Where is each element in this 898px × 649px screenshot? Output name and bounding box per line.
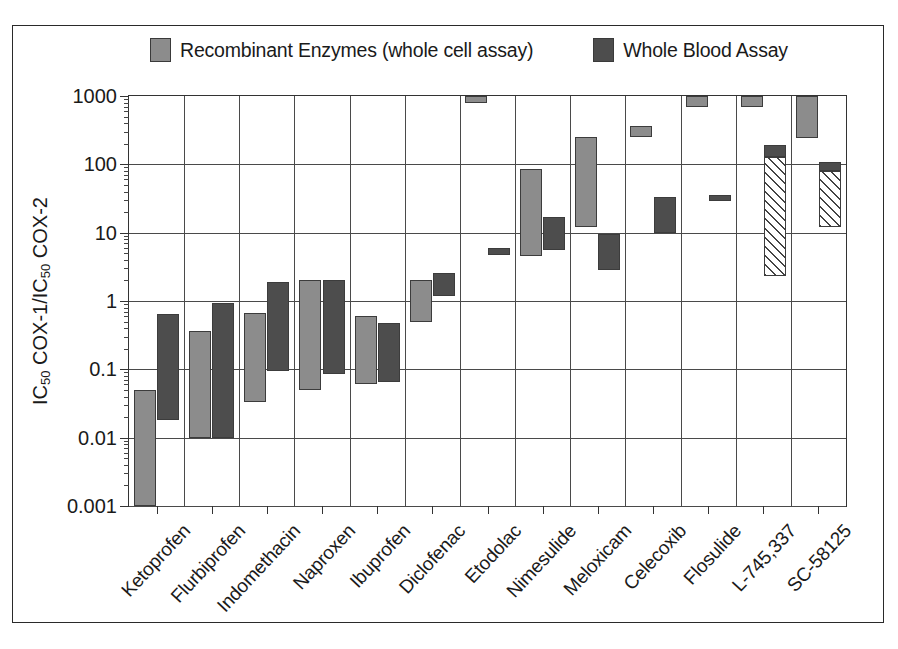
y-axis-minor-tick xyxy=(124,384,129,385)
y-axis-minor-tick xyxy=(124,444,129,445)
y-axis-minor-tick xyxy=(124,111,129,112)
x-axis-tick xyxy=(377,506,378,514)
y-axis-minor-tick xyxy=(124,107,129,108)
y-axis-tick xyxy=(120,233,129,234)
bar-diclofenac-light xyxy=(410,280,432,321)
x-gridline xyxy=(184,96,185,506)
y-axis-title: IC50 COX-1/IC50 COX-2 xyxy=(29,197,54,405)
y-axis-minor-tick xyxy=(124,390,129,391)
y-axis-label: 0.001 xyxy=(67,495,117,518)
bar-flurbiprofen-light xyxy=(189,331,211,438)
y-axis-tick xyxy=(120,438,129,439)
x-gridline xyxy=(736,96,737,506)
x-gridline xyxy=(681,96,682,506)
y-gridline xyxy=(129,233,846,234)
x-gridline xyxy=(405,96,406,506)
y-axis-minor-tick xyxy=(124,349,129,350)
y-axis-minor-tick xyxy=(124,117,129,118)
x-axis-tick xyxy=(157,506,158,514)
legend-label-recombinant: Recombinant Enzymes (whole cell assay) xyxy=(180,39,533,62)
chart-legend: Recombinant Enzymes (whole cell assay) W… xyxy=(150,38,788,62)
x-axis-tick xyxy=(708,506,709,514)
y-axis-minor-tick xyxy=(124,239,129,240)
bar-flosulide-light xyxy=(686,96,708,107)
x-gridline xyxy=(460,96,461,506)
y-axis-minor-tick xyxy=(124,304,129,305)
y-gridline xyxy=(129,301,846,302)
x-gridline xyxy=(515,96,516,506)
bar-sc-58125-dark xyxy=(819,162,841,171)
y-gridline xyxy=(129,438,846,439)
legend-entry-recombinant: Recombinant Enzymes (whole cell assay) xyxy=(150,38,533,62)
bar-indomethacin-dark xyxy=(267,282,289,372)
y-axis-label: 0.01 xyxy=(78,426,117,449)
x-axis-tick xyxy=(212,506,213,514)
x-gridline xyxy=(239,96,240,506)
y-axis-minor-tick xyxy=(124,485,129,486)
y-axis-minor-tick xyxy=(124,417,129,418)
y-axis-minor-tick xyxy=(124,308,129,309)
bar-meloxicam-dark xyxy=(598,234,620,270)
bar-naproxen-dark xyxy=(323,280,345,374)
bar-etodolac-light xyxy=(465,96,487,103)
y-axis-minor-tick xyxy=(124,316,129,317)
x-gridline xyxy=(570,96,571,506)
bar-diclofenac-dark xyxy=(433,273,455,296)
y-axis-minor-tick xyxy=(124,372,129,373)
y-axis-minor-tick xyxy=(124,441,129,442)
y-axis-minor-tick xyxy=(124,473,129,474)
y-axis-minor-tick xyxy=(124,380,129,381)
y-axis-minor-tick xyxy=(124,179,129,180)
x-axis-tick xyxy=(543,506,544,514)
y-axis-minor-tick xyxy=(124,253,129,254)
bar-ibuprofen-light xyxy=(355,316,377,383)
y-axis-minor-tick xyxy=(124,248,129,249)
bar-sc-58125-light xyxy=(796,96,818,138)
y-axis-minor-tick xyxy=(124,453,129,454)
legend-entry-whole-blood: Whole Blood Assay xyxy=(593,38,788,62)
y-axis-tick xyxy=(120,506,129,507)
x-axis-tick xyxy=(818,506,819,514)
y-axis-minor-tick xyxy=(124,328,129,329)
dark-gray-square-icon xyxy=(593,38,614,62)
bar-ketoprofen-dark xyxy=(157,314,179,420)
y-gridline xyxy=(129,369,846,370)
bar-sc-58125-hatch xyxy=(819,171,841,227)
x-gridline xyxy=(350,96,351,506)
y-axis-minor-tick xyxy=(124,465,129,466)
y-axis-minor-tick xyxy=(124,175,129,176)
y-axis-label: 1000 xyxy=(73,85,118,108)
y-axis-minor-tick xyxy=(124,405,129,406)
bar-indomethacin-light xyxy=(244,313,266,402)
light-gray-square-icon xyxy=(150,38,171,62)
y-axis-minor-tick xyxy=(124,167,129,168)
bar-celecoxib-dark xyxy=(654,197,676,232)
y-axis-minor-tick xyxy=(124,376,129,377)
y-axis-label: 100 xyxy=(84,153,117,176)
plot-area: IC50 COX-1/IC50 COX-2 10001001010.10.010… xyxy=(128,95,847,507)
y-axis-minor-tick xyxy=(124,103,129,104)
y-axis-label: 0.1 xyxy=(89,358,117,381)
bar-flosulide-dark xyxy=(709,195,731,201)
figure-page: Recombinant Enzymes (whole cell assay) W… xyxy=(0,0,898,649)
y-axis-label: 10 xyxy=(95,221,117,244)
y-axis-minor-tick xyxy=(124,132,129,133)
x-gridline xyxy=(625,96,626,506)
y-axis-minor-tick xyxy=(124,337,129,338)
bar-flurbiprofen-dark xyxy=(212,303,234,438)
y-axis-label: 1 xyxy=(106,290,117,313)
x-axis-tick xyxy=(763,506,764,514)
bar-etodolac-dark xyxy=(488,248,510,255)
x-axis-tick xyxy=(267,506,268,514)
x-axis-tick xyxy=(322,506,323,514)
y-axis-tick xyxy=(120,164,129,165)
x-gridline xyxy=(791,96,792,506)
x-axis-tick xyxy=(488,506,489,514)
y-axis-tick xyxy=(120,301,129,302)
x-axis-tick xyxy=(653,506,654,514)
y-axis-minor-tick xyxy=(124,280,129,281)
bar-celecoxib-light xyxy=(630,126,652,138)
bar-nimesulide-dark xyxy=(543,217,565,250)
legend-label-whole-blood: Whole Blood Assay xyxy=(623,39,788,62)
y-axis-minor-tick xyxy=(124,212,129,213)
